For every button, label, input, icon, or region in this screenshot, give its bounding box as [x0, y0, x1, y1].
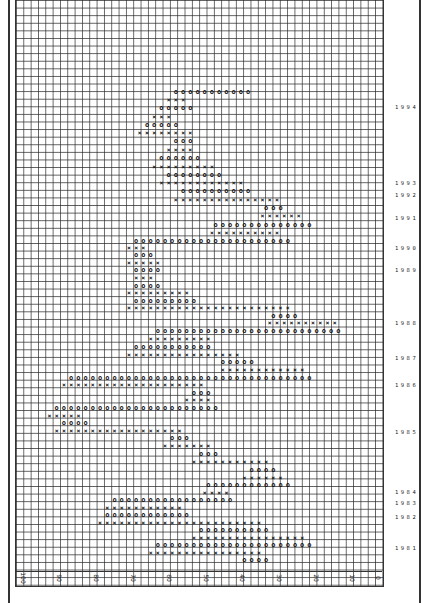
- year-label: 1991: [395, 215, 418, 221]
- o-box: o: [234, 375, 241, 382]
- o-box: o: [227, 238, 234, 245]
- x-box: ×: [68, 428, 75, 435]
- o-box: o: [270, 222, 277, 229]
- o-box: o: [162, 542, 169, 549]
- x-box: ×: [180, 97, 187, 104]
- o-box: o: [194, 188, 201, 195]
- o-box: o: [201, 89, 208, 96]
- o-box: o: [255, 542, 262, 549]
- o-box: o: [241, 557, 248, 564]
- x-box: ×: [284, 305, 291, 312]
- x-box: ×: [162, 428, 169, 435]
- x-box: ×: [201, 490, 208, 497]
- x-box: ×: [241, 305, 248, 312]
- x-box: ×: [118, 505, 125, 512]
- o-box: o: [154, 298, 161, 305]
- o-box: o: [208, 172, 215, 179]
- o-box: o: [320, 328, 327, 335]
- year-label: 1988: [395, 320, 418, 326]
- o-box: o: [328, 328, 335, 335]
- year-label: 1981: [395, 545, 418, 551]
- x-box: ×: [172, 180, 179, 187]
- o-box: o: [169, 405, 176, 412]
- x-box: ×: [187, 180, 194, 187]
- o-box: o: [205, 390, 212, 397]
- x-box: ×: [273, 213, 280, 220]
- year-label: 1989: [395, 267, 418, 273]
- x-box: ×: [190, 443, 197, 450]
- o-box: o: [187, 105, 194, 112]
- o-box: o: [270, 205, 277, 212]
- x-box: ×: [118, 428, 125, 435]
- x-box: ×: [263, 535, 270, 542]
- x-box: ×: [241, 520, 248, 527]
- o-box: o: [255, 467, 262, 474]
- o-box: o: [230, 188, 237, 195]
- x-box: ×: [133, 352, 140, 359]
- x-box: ×: [273, 230, 280, 237]
- x-box: ×: [140, 260, 147, 267]
- x-box: ×: [180, 180, 187, 187]
- x-box: ×: [324, 320, 331, 327]
- x-box: ×: [234, 535, 241, 542]
- x-box: ×: [205, 443, 212, 450]
- x-box: ×: [248, 520, 255, 527]
- x-box: ×: [158, 180, 165, 187]
- year-label: 1993: [395, 180, 418, 186]
- o-box: o: [75, 405, 82, 412]
- x-box: ×: [165, 180, 172, 187]
- x-box: ×: [125, 305, 132, 312]
- x-box: ×: [208, 180, 215, 187]
- o-box: o: [172, 105, 179, 112]
- o-box: o: [176, 497, 183, 504]
- o-box: o: [263, 527, 270, 534]
- x-box: ×: [205, 397, 212, 404]
- o-box: o: [169, 298, 176, 305]
- x-box: ×: [230, 180, 237, 187]
- o-box: o: [154, 542, 161, 549]
- x-box: ×: [255, 475, 262, 482]
- x-box: ×: [234, 550, 241, 557]
- x-box: ×: [227, 305, 234, 312]
- x-box: ×: [180, 164, 187, 171]
- o-box: o: [140, 375, 147, 382]
- o-box: o: [154, 405, 161, 412]
- o-box: o: [306, 542, 313, 549]
- o-box: o: [292, 542, 299, 549]
- o-box: o: [241, 542, 248, 549]
- o-box: o: [245, 89, 252, 96]
- o-box: o: [205, 542, 212, 549]
- x-box: ×: [292, 367, 299, 374]
- x-box: ×: [205, 305, 212, 312]
- o-box: o: [237, 188, 244, 195]
- x-box: ×: [198, 382, 205, 389]
- x-box: ×: [176, 520, 183, 527]
- o-box: o: [140, 512, 147, 519]
- o-box: o: [299, 375, 306, 382]
- o-box: o: [118, 375, 125, 382]
- x-box: ×: [147, 505, 154, 512]
- x-box: ×: [219, 352, 226, 359]
- o-box: o: [255, 222, 262, 229]
- o-box: o: [82, 405, 89, 412]
- year-label: 1987: [395, 355, 418, 361]
- o-box: o: [162, 298, 169, 305]
- o-box: o: [140, 238, 147, 245]
- o-box: o: [154, 375, 161, 382]
- o-box: o: [277, 482, 284, 489]
- x-box: ×: [284, 535, 291, 542]
- o-box: o: [183, 238, 190, 245]
- x-box: ×: [223, 197, 230, 204]
- x-box: ×: [198, 520, 205, 527]
- x-box: ×: [183, 520, 190, 527]
- x-box: ×: [198, 305, 205, 312]
- x-box: ×: [331, 320, 338, 327]
- x-box: ×: [53, 413, 60, 420]
- o-box: o: [234, 238, 241, 245]
- o-box: o: [154, 238, 161, 245]
- o-box: o: [219, 328, 226, 335]
- x-box: ×: [266, 320, 273, 327]
- year-label: 1983: [395, 500, 418, 506]
- o-box: o: [183, 344, 190, 351]
- x-box: ×: [277, 305, 284, 312]
